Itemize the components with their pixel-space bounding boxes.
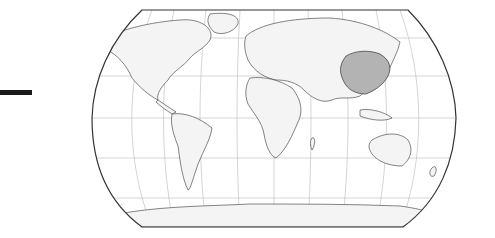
- antarctica: [100, 204, 456, 227]
- australia: [369, 134, 411, 166]
- landmasses: [100, 13, 456, 227]
- greenland: [208, 13, 238, 33]
- world-map: [0, 0, 495, 238]
- north-america: [105, 20, 211, 100]
- china-highlight: [341, 51, 390, 94]
- south-america: [171, 114, 212, 190]
